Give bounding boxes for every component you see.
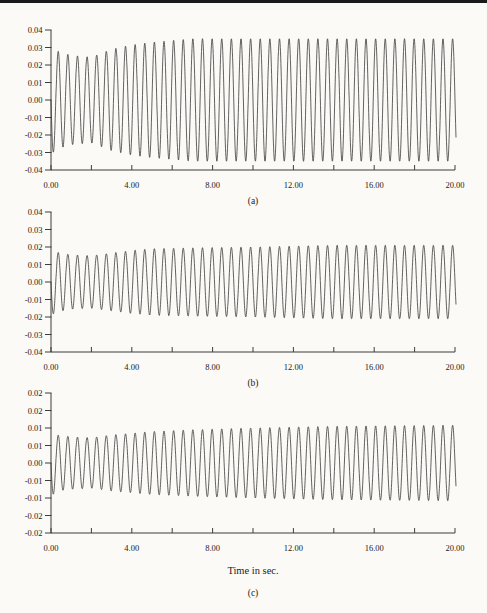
x-tick-label: 16.00	[365, 180, 384, 190]
y-tick-label: -0.01	[25, 295, 43, 305]
x-tick-label: 20.00	[445, 362, 464, 372]
y-tick-label: 0.03	[28, 225, 43, 235]
y-tick-label: 0.01	[28, 423, 43, 433]
y-tick-label: -0.03	[25, 148, 43, 158]
waveform-curve-a	[51, 39, 456, 162]
x-tick-label: 4.00	[124, 362, 139, 372]
y-tick-label: -0.02	[25, 130, 43, 140]
y-tick-label: 0.04	[28, 207, 44, 217]
y-tick-label: -0.01	[25, 493, 43, 503]
y-tick-label: 0.02	[28, 388, 43, 398]
x-tick-label: 12.00	[284, 180, 303, 190]
y-tick-label: 0.02	[28, 406, 43, 416]
y-tick-label: 0.04	[28, 25, 44, 35]
y-tick-label: 0.00	[28, 277, 43, 287]
x-tick-label: 0.00	[44, 543, 59, 553]
y-tick-label: -0.04	[25, 165, 43, 175]
x-tick-label: 16.00	[365, 543, 384, 553]
y-tick-label: 0.02	[28, 60, 43, 70]
x-tick-label: 12.00	[284, 543, 303, 553]
x-tick-label: 8.00	[205, 362, 220, 372]
x-tick-label: 0.00	[44, 362, 59, 372]
y-tick-label: 0.03	[28, 43, 43, 53]
y-tick-label: -0.02	[25, 528, 43, 538]
waveform-plots: 0.040.030.020.010.00-0.01-0.02-0.03-0.04…	[0, 0, 487, 613]
x-tick-label: 16.00	[365, 362, 384, 372]
x-tick-label: 8.00	[205, 180, 220, 190]
y-tick-label: -0.01	[25, 476, 43, 486]
y-tick-label: -0.02	[25, 312, 43, 322]
y-tick-label: 0.02	[28, 242, 43, 252]
caption-a: (a)	[51, 196, 455, 206]
x-tick-label: 12.00	[284, 362, 303, 372]
y-tick-label: 0.01	[28, 441, 43, 451]
caption-c: (c)	[51, 588, 455, 598]
y-tick-label: 0.00	[28, 95, 43, 105]
y-tick-label: 0.01	[28, 260, 43, 270]
figure-page: 0.040.030.020.010.00-0.01-0.02-0.03-0.04…	[0, 0, 487, 613]
y-tick-label: -0.02	[25, 511, 43, 521]
x-tick-label: 8.00	[205, 543, 220, 553]
y-tick-label: -0.04	[25, 347, 43, 357]
x-tick-label: 4.00	[124, 543, 139, 553]
x-tick-label: 0.00	[44, 180, 59, 190]
x-tick-label: 4.00	[124, 180, 139, 190]
waveform-curve-b	[51, 245, 456, 318]
y-tick-label: -0.01	[25, 113, 43, 123]
caption-b: (b)	[51, 378, 455, 388]
y-tick-label: 0.01	[28, 78, 43, 88]
x-axis-title: Time in sec.	[51, 565, 455, 576]
waveform-curve-c	[51, 425, 456, 501]
x-tick-label: 20.00	[445, 180, 464, 190]
y-tick-label: -0.03	[25, 330, 43, 340]
x-tick-label: 20.00	[445, 543, 464, 553]
y-tick-label: 0.00	[28, 458, 43, 468]
